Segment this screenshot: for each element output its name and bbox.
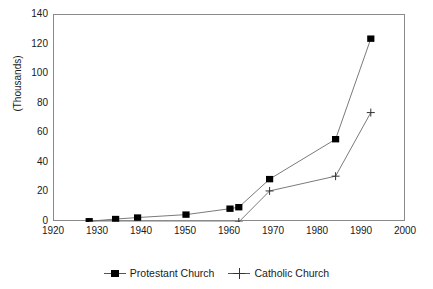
x-axis-tick-labels: 192019301940195019601970198019902000 [0,225,433,241]
plus-marker-icon [228,268,250,279]
data-point-marker [332,136,339,142]
filled-square-marker-icon [104,268,126,279]
data-point-marker [266,176,273,182]
y-tick-label: 100 [2,68,48,78]
data-point-marker [235,204,242,210]
y-tick-label: 20 [2,186,48,196]
plot-area [53,14,405,221]
x-tick-label: 1940 [116,225,166,237]
x-tick-label: 1920 [28,225,78,237]
data-point-marker [86,218,93,222]
x-tick-label: 1950 [160,225,210,237]
data-point-marker [182,211,189,217]
x-tick-label: 1990 [336,225,386,237]
y-tick-label: 140 [2,9,48,19]
x-tick-label: 1980 [292,225,342,237]
legend-label: Catholic Church [254,267,329,279]
x-tick-label: 2000 [380,225,430,237]
data-point-marker [367,35,374,41]
y-tick-label: 80 [2,98,48,108]
legend-label: Protestant Church [130,267,215,279]
y-tick-label: 40 [2,157,48,167]
series-1 [86,35,375,222]
data-point-marker [226,205,233,211]
data-point-marker [112,216,119,222]
series-line [89,39,371,222]
plot-svg [54,15,406,222]
chart-legend: Protestant ChurchCatholic Church [0,264,433,282]
y-tick-label: 60 [2,127,48,137]
y-axis-tick-labels: 020406080100120140 [0,0,48,240]
line-chart: 020406080100120140 (Thousands) 192019301… [0,0,433,289]
x-tick-label: 1930 [72,225,122,237]
y-axis-title: (Thousands) [12,29,23,139]
x-tick-label: 1960 [204,225,254,237]
series-2 [89,109,375,222]
y-tick-label: 120 [2,39,48,49]
x-tick-label: 1970 [248,225,298,237]
legend-entry[interactable]: Catholic Church [228,267,329,279]
data-point-marker [134,214,141,220]
legend-entry[interactable]: Protestant Church [104,267,215,279]
